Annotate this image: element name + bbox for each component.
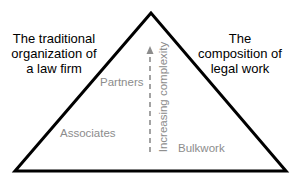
complexity-arrow-head-icon [147,46,154,54]
left-heading: The traditional organization of a law fi… [8,31,100,76]
pyramid-graphic [0,0,301,183]
right-heading: The composition of legal work [195,31,285,76]
tier-label-associates: Associates [60,126,116,141]
law-firm-pyramid-diagram: The traditional organization of a law fi… [0,0,301,183]
tier-label-bulkwork: Bulkwork [178,141,225,156]
tier-label-partners: Partners [100,75,143,90]
axis-label-increasing-complexity: Increasing complexity [157,42,169,153]
